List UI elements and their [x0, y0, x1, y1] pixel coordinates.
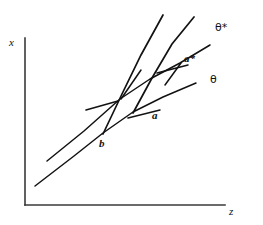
point-b-label: b	[99, 138, 105, 149]
figure-canvas: x z θ θ* b a a*	[0, 0, 263, 225]
point-a-star-label: a*	[184, 53, 195, 64]
steep-line-through-a	[133, 17, 194, 113]
theta-locus-label: θ	[210, 74, 217, 85]
theta-star-locus-label: θ*	[215, 22, 227, 33]
theta-locus-curve	[35, 83, 196, 186]
vertical-axis-label: x	[9, 37, 14, 48]
horizontal-axis-label: z	[229, 206, 233, 217]
point-a-label: a	[152, 110, 158, 121]
